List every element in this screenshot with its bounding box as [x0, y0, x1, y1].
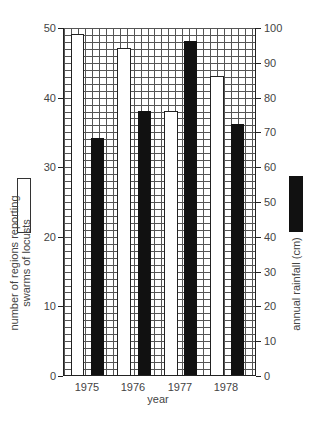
legend-swatch-rainfall	[289, 176, 303, 232]
bar-rainfall-1977	[184, 41, 197, 375]
right-tick-label: 0	[264, 371, 288, 382]
dual-axis-bar-chart: number of regions reporting swarms of lo…	[0, 0, 322, 422]
right-tick-label: 80	[264, 93, 288, 104]
x-tick-label: 1976	[113, 382, 153, 393]
legend-label-rainfall-text: annual rainfall (cm)	[290, 237, 302, 331]
right-tick	[256, 237, 261, 238]
x-tick-label: 1977	[160, 382, 200, 393]
right-tick	[256, 132, 261, 133]
x-tick-label: 1978	[206, 382, 246, 393]
left-tick-0	[58, 376, 63, 377]
right-tick-label: 10	[264, 336, 288, 347]
left-tick-label: 0	[36, 371, 56, 382]
left-tick-label: 40	[36, 93, 56, 104]
right-tick-label: 100	[264, 23, 288, 34]
bar-rainfall-1978	[231, 124, 244, 375]
right-tick-label: 50	[264, 197, 288, 208]
right-tick	[256, 202, 261, 203]
right-tick-label: 20	[264, 301, 288, 312]
legend-label-line2: swarms of locusts	[20, 180, 32, 346]
legend-label-rainfall: annual rainfall (cm)	[290, 236, 302, 332]
legend-label-locust-regions: number of regions reporting swarms of lo…	[8, 180, 32, 346]
right-tick	[256, 341, 261, 342]
bar-rainfall-1975	[91, 138, 104, 375]
left-tick-label: 10	[36, 301, 56, 312]
bar-locusts-1977	[164, 111, 178, 375]
left-tick-label: 20	[36, 232, 56, 243]
bar-locusts-1975	[71, 34, 84, 375]
right-tick-label: 60	[264, 162, 288, 173]
right-tick	[256, 272, 261, 273]
x-tick-label: 1975	[67, 382, 107, 393]
bar-locusts-1976	[117, 48, 131, 375]
right-tick	[256, 167, 261, 168]
right-tick	[256, 28, 261, 29]
x-axis-title: year	[138, 394, 178, 405]
left-tick-label: 50	[36, 23, 56, 34]
right-tick	[256, 98, 261, 99]
right-tick-label: 70	[264, 127, 288, 138]
right-tick-label: 40	[264, 232, 288, 243]
bar-locusts-1978	[210, 76, 224, 375]
right-tick	[256, 306, 261, 307]
right-tick	[256, 376, 261, 377]
left-tick-label: 30	[36, 162, 56, 173]
right-tick-label: 30	[264, 267, 288, 278]
right-tick	[256, 63, 261, 64]
plot-area	[63, 28, 256, 376]
right-tick-label: 90	[264, 58, 288, 69]
bar-rainfall-1976	[138, 111, 151, 375]
legend-label-line1: number of regions reporting	[8, 180, 20, 346]
